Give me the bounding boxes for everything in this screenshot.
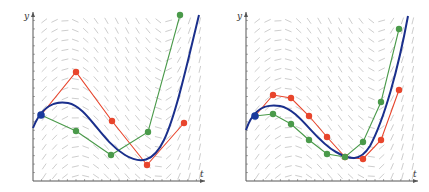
slope-segment xyxy=(359,18,363,24)
green-step-point xyxy=(306,137,312,143)
slope-segment xyxy=(199,144,201,151)
slope-segment xyxy=(390,18,394,24)
slope-segment xyxy=(125,86,129,92)
slope-segment xyxy=(378,39,385,41)
slope-segment xyxy=(328,164,332,169)
slope-segment xyxy=(115,105,119,111)
slope-segment xyxy=(379,154,384,159)
slope-segment xyxy=(62,59,69,61)
slope-segment xyxy=(52,135,57,140)
slope-segment xyxy=(401,173,403,180)
red-step-point xyxy=(306,113,312,119)
slope-segment xyxy=(72,78,79,79)
slope-segment xyxy=(285,69,292,71)
slope-segment xyxy=(390,95,393,101)
slope-segment xyxy=(52,67,58,71)
slope-segment xyxy=(115,37,118,43)
slope-segment xyxy=(83,77,89,81)
slope-segment xyxy=(165,39,172,41)
slope-segment xyxy=(307,67,311,72)
slope-segment xyxy=(145,106,150,111)
slope-segment xyxy=(349,18,353,24)
euler-slope-field-figure: ty ty xyxy=(0,0,429,192)
green-step-point xyxy=(378,99,384,105)
slope-segment xyxy=(155,48,161,52)
slope-segment xyxy=(83,97,89,101)
red-step-point xyxy=(144,162,150,168)
slope-segment xyxy=(412,37,414,44)
slope-segment xyxy=(265,87,270,91)
slope-segment xyxy=(379,68,385,71)
green-step-point xyxy=(73,128,79,134)
slope-segment xyxy=(188,153,190,160)
slope-segment xyxy=(368,97,374,100)
slope-segment xyxy=(255,38,260,43)
slope-segment xyxy=(62,107,68,110)
y-axis-label: y xyxy=(236,11,243,21)
slope-segment xyxy=(265,144,270,149)
slope-segment xyxy=(328,125,332,131)
slope-segment xyxy=(275,164,281,168)
slope-segment xyxy=(105,47,109,53)
slope-segment xyxy=(72,147,79,148)
slope-segment xyxy=(328,115,332,121)
slope-segment xyxy=(126,18,129,24)
slope-segment xyxy=(307,106,312,111)
slope-segment xyxy=(285,19,291,22)
slope-segment xyxy=(307,76,312,81)
slope-segment xyxy=(188,37,190,44)
slope-segment xyxy=(255,77,260,82)
slope-segment xyxy=(328,47,331,53)
slope-segment xyxy=(115,96,119,102)
slope-segment xyxy=(145,174,151,177)
slope-segment xyxy=(307,57,311,62)
slope-segment xyxy=(379,174,384,179)
slope-segment xyxy=(62,164,68,168)
green-step-point xyxy=(270,111,276,117)
slope-segment xyxy=(338,86,342,92)
slope-segment xyxy=(177,37,181,43)
slope-segment xyxy=(146,47,151,52)
slope-segment xyxy=(255,173,259,179)
slope-segment xyxy=(42,57,47,62)
slope-segment xyxy=(135,86,139,92)
slope-segment xyxy=(155,68,161,71)
slope-segment xyxy=(94,86,99,91)
slope-segment xyxy=(62,78,69,80)
red-step-point xyxy=(324,134,330,140)
slope-segment xyxy=(145,86,150,91)
slope-segment xyxy=(52,39,58,42)
slope-segment xyxy=(307,96,312,101)
slope-segment xyxy=(275,155,281,159)
slope-segment xyxy=(125,66,129,72)
slope-segment xyxy=(72,98,79,99)
red-step-point xyxy=(109,118,115,124)
slope-segment xyxy=(115,86,119,92)
slope-segment xyxy=(83,126,89,129)
slope-segment xyxy=(368,68,374,71)
green-step-point xyxy=(145,129,151,135)
slope-segment xyxy=(83,38,88,43)
slope-segment xyxy=(199,134,201,141)
slope-segment xyxy=(349,76,353,82)
slope-segment xyxy=(264,19,270,22)
slope-segment xyxy=(199,115,201,122)
slope-segment xyxy=(338,66,342,72)
slope-segment xyxy=(188,85,190,92)
slope-segment xyxy=(296,77,302,81)
green-step-point xyxy=(324,151,330,157)
slope-segment xyxy=(296,18,301,23)
slope-segment xyxy=(199,37,201,44)
slope-segment xyxy=(275,88,282,90)
slope-segment xyxy=(177,66,180,72)
slope-segment xyxy=(52,116,57,121)
slope-segment xyxy=(412,47,414,54)
slope-segment xyxy=(401,18,403,25)
slope-segment xyxy=(348,96,352,102)
slope-segment xyxy=(359,47,364,52)
slope-segment xyxy=(391,154,394,160)
slope-segment xyxy=(62,68,69,70)
slope-segment xyxy=(42,135,46,141)
slope-segment xyxy=(255,164,259,170)
slope-segment xyxy=(265,154,270,159)
